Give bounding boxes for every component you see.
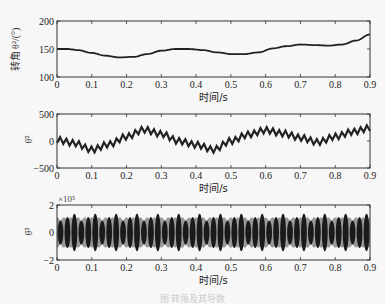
x-tick-label: 0.5: [225, 262, 238, 273]
x-tick-label: 0.7: [294, 170, 307, 181]
y-axis-label-velocity: θ̇²: [23, 130, 34, 150]
y-axis-label-acceleration: θ̈²: [23, 221, 34, 241]
x-tick-label: 0.3: [155, 79, 168, 90]
acceleration-burst: [162, 220, 168, 244]
acceleration-burst: [280, 214, 286, 251]
acceleration-burst: [134, 214, 140, 251]
x-tick-label: 0.3: [155, 170, 168, 181]
acceleration-burst: [231, 217, 237, 248]
acceleration-burst: [127, 217, 133, 248]
acceleration-burst: [99, 220, 105, 244]
acceleration-burst: [308, 220, 314, 244]
velocity-curve: [57, 125, 370, 152]
acceleration-burst: [211, 217, 217, 248]
acceleration-burst: [322, 214, 328, 251]
x-axis-label: 时间/s: [199, 274, 228, 286]
x-tick-label: 0.2: [120, 262, 133, 273]
acceleration-burst: [169, 217, 175, 248]
acceleration-burst: [204, 220, 210, 244]
x-tick-label: 0.4: [190, 262, 203, 273]
acceleration-burst: [176, 214, 182, 251]
x-tick-label: 0.8: [329, 79, 342, 90]
x-tick-label: 0.9: [364, 262, 377, 273]
acceleration-burst: [148, 217, 154, 248]
x-tick-label: 0.3: [155, 262, 168, 273]
x-tick-label: 0.5: [225, 79, 238, 90]
x-tick-label: 0.7: [294, 262, 307, 273]
y-tick-label: 0: [49, 136, 54, 147]
acceleration-burst: [85, 217, 91, 248]
acceleration-burst: [259, 214, 265, 251]
x-tick-label: 0.6: [259, 170, 272, 181]
acceleration-burst: [301, 214, 307, 251]
x-tick-label: 0: [55, 170, 60, 181]
x-tick-label: 0.1: [86, 170, 99, 181]
acceleration-burst: [315, 217, 321, 248]
y-tick-label: 200: [39, 16, 54, 27]
acceleration-burst: [141, 220, 147, 244]
figure: 00.10.20.30.40.50.60.70.80.9100150200时间/…: [0, 0, 385, 304]
x-tick-label: 0.4: [190, 170, 203, 181]
acceleration-burst: [65, 217, 71, 248]
acceleration-burst: [190, 217, 196, 248]
acceleration-burst: [287, 220, 293, 244]
acceleration-burst: [92, 214, 98, 251]
acceleration-burst: [183, 220, 189, 244]
x-tick-label: 0.7: [294, 79, 307, 90]
acceleration-burst: [238, 214, 244, 251]
acceleration-burst: [252, 217, 258, 248]
acceleration-burst: [343, 214, 349, 251]
y-tick-label: −2: [43, 255, 54, 266]
acceleration-burst: [266, 220, 272, 244]
y-tick-label: 150: [39, 44, 54, 55]
angle-curve: [57, 34, 370, 57]
acceleration-burst: [294, 217, 300, 248]
acceleration-burst: [78, 220, 84, 244]
acceleration-burst: [106, 217, 112, 248]
axes-box: [57, 21, 370, 77]
x-tick-label: 0.1: [86, 79, 99, 90]
x-tick-label: 0.2: [120, 79, 133, 90]
acceleration-burst: [224, 220, 230, 244]
y-multiplier: ×10⁵: [58, 194, 75, 204]
acceleration-burst: [350, 220, 356, 244]
x-tick-label: 0.6: [259, 262, 272, 273]
y-tick-label: −500: [33, 163, 54, 174]
x-tick-label: 0.6: [259, 79, 272, 90]
acceleration-burst: [218, 214, 224, 251]
acceleration-burst: [113, 214, 119, 251]
x-tick-label: 0.2: [120, 170, 133, 181]
y-tick-label: 500: [39, 109, 54, 120]
acceleration-burst: [71, 214, 77, 251]
panel-angular-velocity: 00.10.20.30.40.50.60.70.80.9−5000500时间/s: [33, 109, 376, 195]
y-axis-label-angle: 转角 θ²/(°): [7, 22, 22, 78]
x-tick-label: 0: [55, 79, 60, 90]
acceleration-burst: [357, 217, 363, 248]
acceleration-burst: [273, 217, 279, 248]
x-tick-label: 0.8: [329, 262, 342, 273]
x-tick-label: 0.9: [364, 79, 377, 90]
x-axis-label: 时间/s: [199, 91, 228, 103]
x-tick-label: 0.5: [225, 170, 238, 181]
panel-angular-acceleration: 00.10.20.30.40.50.60.70.80.9−202时间/s×10⁵: [43, 194, 376, 286]
figure-caption: 图 转角及其导数: [0, 292, 385, 304]
acceleration-burst: [197, 214, 203, 251]
acceleration-burst: [155, 214, 161, 251]
y-tick-label: 0: [49, 227, 54, 238]
y-tick-label: 2: [49, 200, 54, 211]
x-tick-label: 0.1: [86, 262, 99, 273]
x-tick-label: 0: [55, 262, 60, 273]
acceleration-burst: [120, 220, 126, 244]
y-tick-label: 100: [39, 72, 54, 83]
x-tick-label: 0.8: [329, 170, 342, 181]
acceleration-burst: [336, 217, 342, 248]
x-axis-label: 时间/s: [199, 182, 228, 194]
x-tick-label: 0.4: [190, 79, 203, 90]
panel-angle: 00.10.20.30.40.50.60.70.80.9100150200时间/…: [39, 16, 376, 104]
acceleration-burst: [245, 220, 251, 244]
acceleration-burst: [329, 220, 335, 244]
x-tick-label: 0.9: [364, 170, 377, 181]
